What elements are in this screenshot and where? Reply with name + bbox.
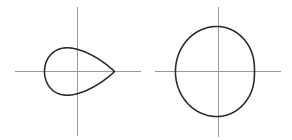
figure-dimpled <box>155 7 281 137</box>
figure-canvas <box>0 0 292 140</box>
figure-teardrop <box>15 7 141 136</box>
